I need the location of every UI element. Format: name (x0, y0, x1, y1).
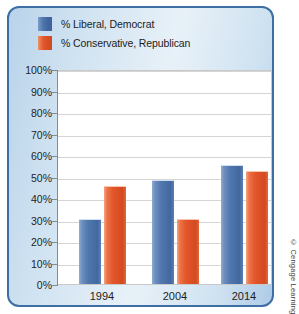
plot-area-wrapper (57, 70, 272, 285)
legend-swatch-blue-icon (38, 17, 52, 31)
bar-1994-conservative-republican (104, 186, 126, 284)
bar-2004-liberal-democrat (152, 180, 174, 284)
chart-figure: % Liberal, Democrat % Conservative, Repu… (0, 0, 299, 314)
bar-group-2004 (152, 71, 199, 284)
bar-2004-conservative-republican (177, 219, 199, 285)
x-axis-label-1994: 1994 (72, 290, 132, 302)
bar-group-1994 (79, 71, 126, 284)
bar-2014-liberal-democrat (221, 165, 243, 284)
legend-label-conservative-republican: % Conservative, Republican (61, 37, 190, 49)
chart-legend: % Liberal, Democrat % Conservative, Repu… (38, 14, 253, 52)
legend-item-conservative-republican: % Conservative, Republican (38, 33, 253, 52)
x-axis-label-2014: 2014 (214, 290, 274, 302)
legend-swatch-orange-icon (38, 36, 52, 50)
x-axis-label-2004: 2004 (145, 290, 205, 302)
y-axis-line (57, 70, 58, 286)
bar-1994-liberal-democrat (79, 219, 101, 285)
legend-item-liberal-democrat: % Liberal, Democrat (38, 14, 253, 33)
bar-group-2014 (221, 71, 268, 284)
copyright-credit: © Cengage Learning (289, 238, 298, 314)
bar-2014-conservative-republican (246, 171, 268, 284)
plot-area (57, 70, 272, 285)
legend-label-liberal-democrat: % Liberal, Democrat (61, 18, 154, 30)
